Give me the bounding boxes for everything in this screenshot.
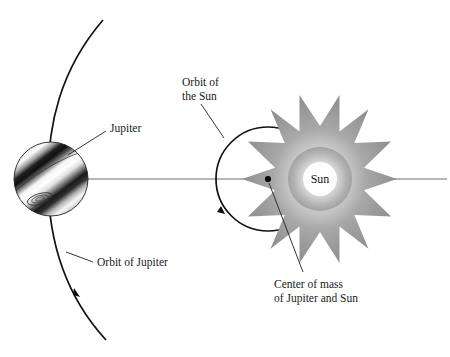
jupiter-label: Jupiter <box>110 122 141 135</box>
orbit-diagram: Sun Jupiter Orbit of Jupiter Orbit of th… <box>0 0 450 357</box>
jupiter-planet-icon <box>6 121 104 240</box>
jupiter-leader-line <box>68 131 106 155</box>
diagram-canvas: Sun Jupiter Orbit of Jupiter Orbit of th… <box>0 0 450 357</box>
orbit-of-the-sun-leader-line <box>201 104 224 138</box>
center-of-mass-label-line2: of Jupiter and Sun <box>274 292 358 305</box>
orbit-of-jupiter-label: Orbit of Jupiter <box>97 256 168 269</box>
orbit-of-jupiter-leader-line <box>66 252 93 262</box>
sun-label: Sun <box>311 172 330 186</box>
center-of-mass-label-line1: Center of mass <box>274 278 344 290</box>
orbit-of-the-sun-label-line1: Orbit of <box>182 76 219 88</box>
center-of-mass-dot-icon <box>265 176 271 182</box>
orbit-of-the-sun-label-line2: the Sun <box>182 90 217 102</box>
